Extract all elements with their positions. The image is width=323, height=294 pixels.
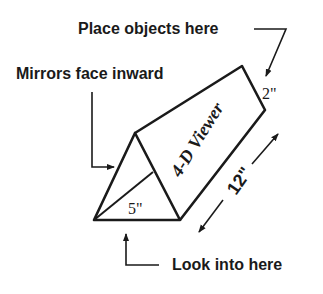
length-arrow-down [199, 200, 223, 232]
height-dimension: 2" [262, 85, 277, 102]
length-dimension: 12" [223, 163, 256, 198]
mirrors-label: Mirrors face inward [16, 65, 164, 82]
mirrors-arrow [92, 92, 114, 167]
place-objects-label: Place objects here [78, 20, 219, 37]
base-dimension: 5" [128, 200, 143, 217]
length-arrow-up [252, 134, 278, 164]
look-into-arrow [126, 234, 159, 265]
look-into-label: Look into here [172, 256, 282, 273]
diagram-canvas: Place objects here Mirrors face inward 2… [0, 0, 323, 294]
4d-viewer-diagram: Place objects here Mirrors face inward 2… [0, 0, 323, 294]
place-objects-arrow [254, 29, 286, 76]
inner-mirror-edge [94, 172, 153, 220]
